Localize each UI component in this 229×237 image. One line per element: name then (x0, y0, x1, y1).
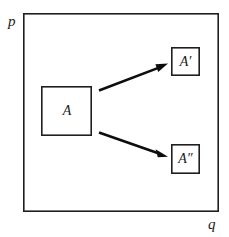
axis-label-p: p (7, 13, 16, 29)
region-label-a: A (62, 103, 72, 118)
region-label-a-double-prime: A″ (177, 151, 193, 166)
axis-label-q: q (208, 216, 216, 232)
figure-canvas: p q A A′ A″ (0, 0, 229, 237)
phase-space-figure: p q A A′ A″ (0, 0, 229, 237)
region-label-a-prime: A′ (179, 54, 193, 69)
